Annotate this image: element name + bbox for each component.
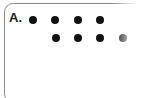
dot [29, 16, 37, 24]
dot [74, 16, 82, 24]
answer-option-a[interactable]: A. [0, 0, 155, 98]
dot [52, 34, 60, 42]
dot [96, 16, 104, 24]
dot [119, 34, 127, 42]
option-letter-label: A. [9, 11, 22, 25]
dot [74, 34, 82, 42]
dot [96, 34, 104, 42]
dot [51, 16, 59, 24]
